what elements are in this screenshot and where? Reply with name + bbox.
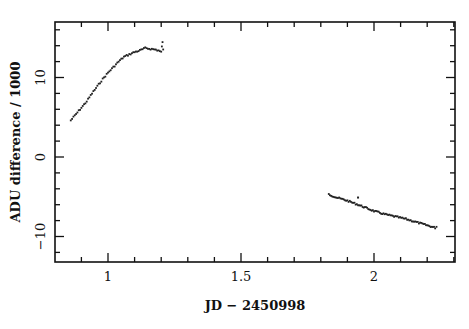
data-point <box>79 109 81 111</box>
data-point <box>162 41 164 43</box>
data-point <box>111 67 113 69</box>
y-tick-label: −10 <box>33 223 48 250</box>
data-point <box>433 226 435 228</box>
data-point <box>162 49 164 51</box>
data-point <box>115 63 117 65</box>
data-point <box>88 96 90 98</box>
y-tick-label: 0 <box>33 153 48 161</box>
data-point <box>436 226 438 228</box>
data-point <box>84 102 86 104</box>
data-point <box>127 55 129 57</box>
axis-ticks <box>55 22 455 262</box>
data-point <box>82 105 84 107</box>
data-point <box>94 89 96 91</box>
x-tick-label: 1 <box>104 269 112 284</box>
data-point <box>118 61 120 63</box>
data-point <box>160 51 162 53</box>
data-point <box>91 93 93 95</box>
data-point <box>99 82 101 84</box>
data-point <box>161 46 163 48</box>
x-axis-label: JD − 2450998 <box>204 298 306 313</box>
y-axis-label: ADU difference / 1000 <box>8 62 23 224</box>
data-point <box>354 202 356 204</box>
light-curve-chart: 11.52−10010 JD − 2450998 ADU difference … <box>0 0 469 329</box>
x-tick-label: 1.5 <box>231 269 252 284</box>
data-point <box>110 69 112 71</box>
data-point <box>104 76 106 78</box>
data-point <box>96 85 98 87</box>
data-point <box>81 107 83 109</box>
tick-labels: 11.52−10010 <box>33 69 378 284</box>
data-point <box>417 221 419 223</box>
x-tick-label: 2 <box>370 269 378 284</box>
data-point <box>434 227 436 229</box>
plot-frame <box>55 22 455 262</box>
outlier-point <box>357 197 359 199</box>
data-point <box>95 87 97 89</box>
data-point <box>122 58 124 60</box>
data-point <box>86 101 88 103</box>
y-tick-label: 10 <box>33 69 48 86</box>
data-point <box>347 199 349 201</box>
data-points <box>70 41 438 229</box>
data-point <box>71 118 73 120</box>
data-point <box>100 81 102 83</box>
data-point <box>77 112 79 114</box>
data-point <box>405 217 407 219</box>
data-point <box>114 66 116 68</box>
